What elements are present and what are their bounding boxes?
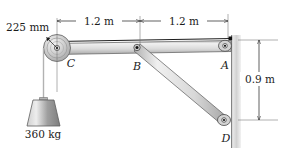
dimension-wall-height: 0.9 m [240,40,280,120]
suspended-mass-block [27,98,60,127]
dimension-span-right: 1.2 m [140,15,228,28]
joint-label-a: A [220,59,229,72]
dimension-label-span-left: 1.2 m [84,15,114,27]
joint-label-c: C [67,57,76,70]
joint-d [218,115,231,126]
dimension-label-pulley-radius: 225 mm [6,21,49,33]
wall [231,35,241,148]
mass-label: 360 kg [25,128,62,140]
diagonal-strut [134,44,227,124]
dimension-label-span-right: 1.2 m [169,15,199,27]
joint-b [134,44,140,50]
joint-label-d: D [221,132,231,145]
wall-anchor-point [229,37,233,41]
joint-a [219,40,232,51]
dimension-label-wall-height: 0.9 m [245,73,275,85]
joint-label-b: B [132,60,141,73]
dimension-span-left: 1.2 m [57,15,140,28]
statics-figure: 1.2 m 1.2 m 0.9 m 225 mm C B A D 360 kg [0,0,289,148]
